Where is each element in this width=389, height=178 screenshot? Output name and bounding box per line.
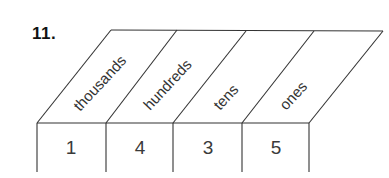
header-top-edge — [111, 30, 383, 31]
digit-ones: 5 — [271, 137, 282, 158]
value-row — [37, 123, 309, 172]
place-value-chart: thousands hundreds tens ones 1 4 3 5 — [0, 0, 389, 178]
column-labels: thousands hundreds tens ones — [70, 52, 311, 114]
digit-tens: 3 — [203, 137, 214, 158]
digit-thousands: 1 — [66, 137, 77, 158]
divider-slant-3 — [242, 31, 314, 123]
column-label-ones: ones — [276, 78, 311, 113]
divider-slant-4 — [309, 31, 383, 123]
column-label-hundreds: hundreds — [140, 56, 195, 113]
digit-hundreds: 4 — [135, 137, 146, 158]
column-label-tens: tens — [210, 81, 242, 113]
header-faces — [37, 30, 383, 123]
